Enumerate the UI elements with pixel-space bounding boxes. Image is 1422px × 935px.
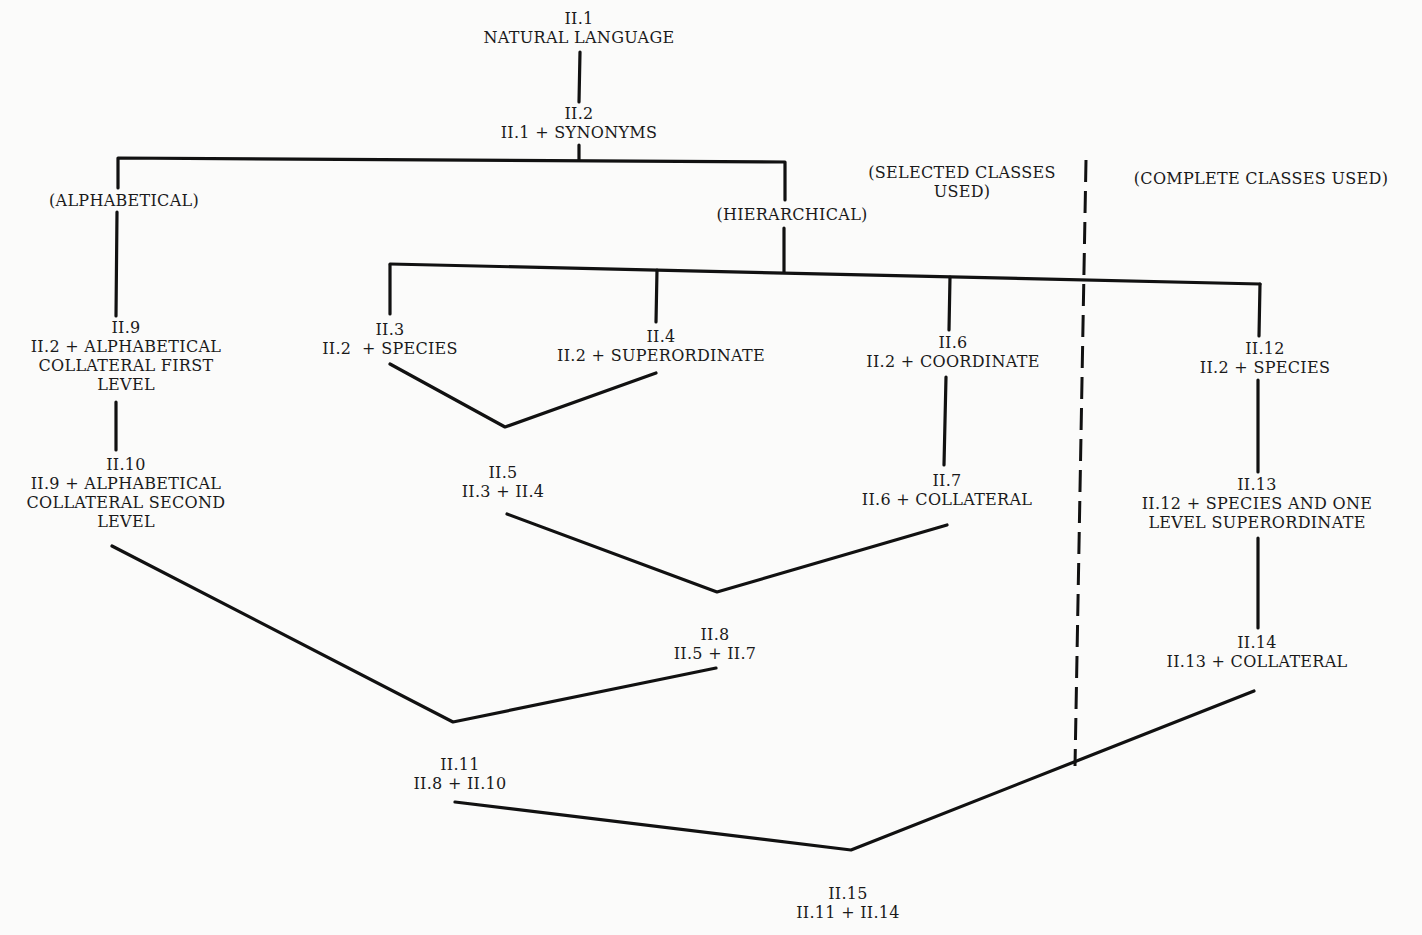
node-ii-14: II.14 II.13 + COLLATERAL (1167, 633, 1348, 671)
node-desc: COLLATERAL FIRST (31, 356, 222, 375)
node-id: II.9 (31, 318, 222, 337)
node-id: II.12 (1200, 339, 1330, 358)
node-desc: II.3 + II.4 (462, 482, 545, 501)
node-id: II.6 (866, 333, 1039, 352)
node-ii-5: II.5 II.3 + II.4 (462, 463, 545, 501)
node-ii-3: II.3 II.2 + SPECIES (322, 320, 458, 358)
edge-bar-n4 (656, 270, 657, 322)
region-selected-classes: (SELECTED CLASSES USED) (868, 163, 1056, 201)
node-id: II.11 (413, 755, 506, 774)
edge-n3-n4-n5 (390, 364, 656, 427)
node-desc: II.2 + SUPERORDINATE (557, 346, 765, 365)
region-complete-classes: (COMPLETE CLASSES USED) (1134, 169, 1388, 188)
node-desc: II.6 + COLLATERAL (862, 490, 1032, 509)
node-id: II.3 (322, 320, 458, 339)
node-ii-8: II.8 II.5 + II.7 (674, 625, 757, 663)
node-ii-2: II.2 II.1 + SYNONYMS (501, 104, 658, 142)
node-desc: II.2 + COORDINATE (866, 352, 1039, 371)
node-desc: LEVEL (27, 512, 226, 531)
node-desc: II.1 + SYNONYMS (501, 123, 658, 142)
node-ii-4: II.4 II.2 + SUPERORDINATE (557, 327, 765, 365)
branch-hierarchical: (HIERARCHICAL) (714, 205, 869, 224)
node-ii-13: II.13 II.12 + SPECIES AND ONE LEVEL SUPE… (1142, 475, 1373, 532)
node-ii-12: II.12 II.2 + SPECIES (1200, 339, 1330, 377)
node-ii-1: II.1 NATURAL LANGUAGE (484, 9, 675, 47)
node-desc: COLLATERAL SECOND (27, 493, 226, 512)
node-desc: II.2 + ALPHABETICAL (31, 337, 222, 356)
region-divider (1075, 160, 1086, 766)
edge-n10-n8-n11 (112, 546, 716, 722)
edge-bar-n6 (949, 277, 950, 330)
node-desc: II.2 + SPECIES (322, 339, 458, 358)
node-ii-15: II.15 II.11 + II.14 (796, 884, 900, 922)
node-id: II.7 (862, 471, 1032, 490)
node-id: II.5 (462, 463, 545, 482)
node-id: II.15 (796, 884, 900, 903)
node-desc: NATURAL LANGUAGE (484, 28, 675, 47)
node-id: II.14 (1167, 633, 1348, 652)
edge-n5-n7-n8 (507, 514, 947, 592)
node-ii-7: II.7 II.6 + COLLATERAL (862, 471, 1032, 509)
node-desc: II.12 + SPECIES AND ONE (1142, 494, 1373, 513)
node-desc: II.8 + II.10 (413, 774, 506, 793)
node-desc: LEVEL SUPERORDINATE (1142, 513, 1373, 532)
hierarchical-bar (390, 264, 1260, 284)
node-desc: II.9 + ALPHABETICAL (27, 474, 226, 493)
edge-alpha-n9 (116, 212, 117, 316)
node-id: II.8 (674, 625, 757, 644)
edge-n6-n7 (944, 377, 946, 465)
top-branch-bar (118, 158, 785, 200)
node-ii-11: II.11 II.8 + II.10 (413, 755, 506, 793)
node-ii-9: II.9 II.2 + ALPHABETICAL COLLATERAL FIRS… (31, 318, 222, 394)
node-id: II.1 (484, 9, 675, 28)
edge-n1-n2 (579, 52, 580, 102)
region-label-line: USED) (868, 182, 1056, 201)
node-desc: II.2 + SPECIES (1200, 358, 1330, 377)
node-id: II.2 (501, 104, 658, 123)
edge-bar-n12 (1259, 284, 1260, 336)
edge-n11-n14-n15 (455, 691, 1254, 850)
branch-alphabetical: (ALPHABETICAL) (47, 191, 201, 210)
node-ii-10: II.10 II.9 + ALPHABETICAL COLLATERAL SEC… (27, 455, 226, 531)
node-desc: II.5 + II.7 (674, 644, 757, 663)
region-label-line: (SELECTED CLASSES (868, 163, 1056, 182)
node-ii-6: II.6 II.2 + COORDINATE (866, 333, 1039, 371)
node-id: II.4 (557, 327, 765, 346)
node-desc: II.13 + COLLATERAL (1167, 652, 1348, 671)
node-desc: LEVEL (31, 375, 222, 394)
node-id: II.13 (1142, 475, 1373, 494)
node-id: II.10 (27, 455, 226, 474)
node-desc: II.11 + II.14 (796, 903, 900, 922)
